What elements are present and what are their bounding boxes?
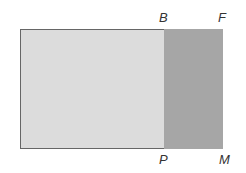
vertex-label-p: P xyxy=(159,153,168,166)
shaded-rectangle-bfmp xyxy=(164,29,223,149)
light-rectangle xyxy=(20,29,164,149)
diagram-canvas: B F P M xyxy=(0,0,246,173)
vertex-label-f: F xyxy=(218,11,226,24)
vertex-label-m: M xyxy=(219,153,230,166)
vertex-label-b: B xyxy=(159,11,168,24)
